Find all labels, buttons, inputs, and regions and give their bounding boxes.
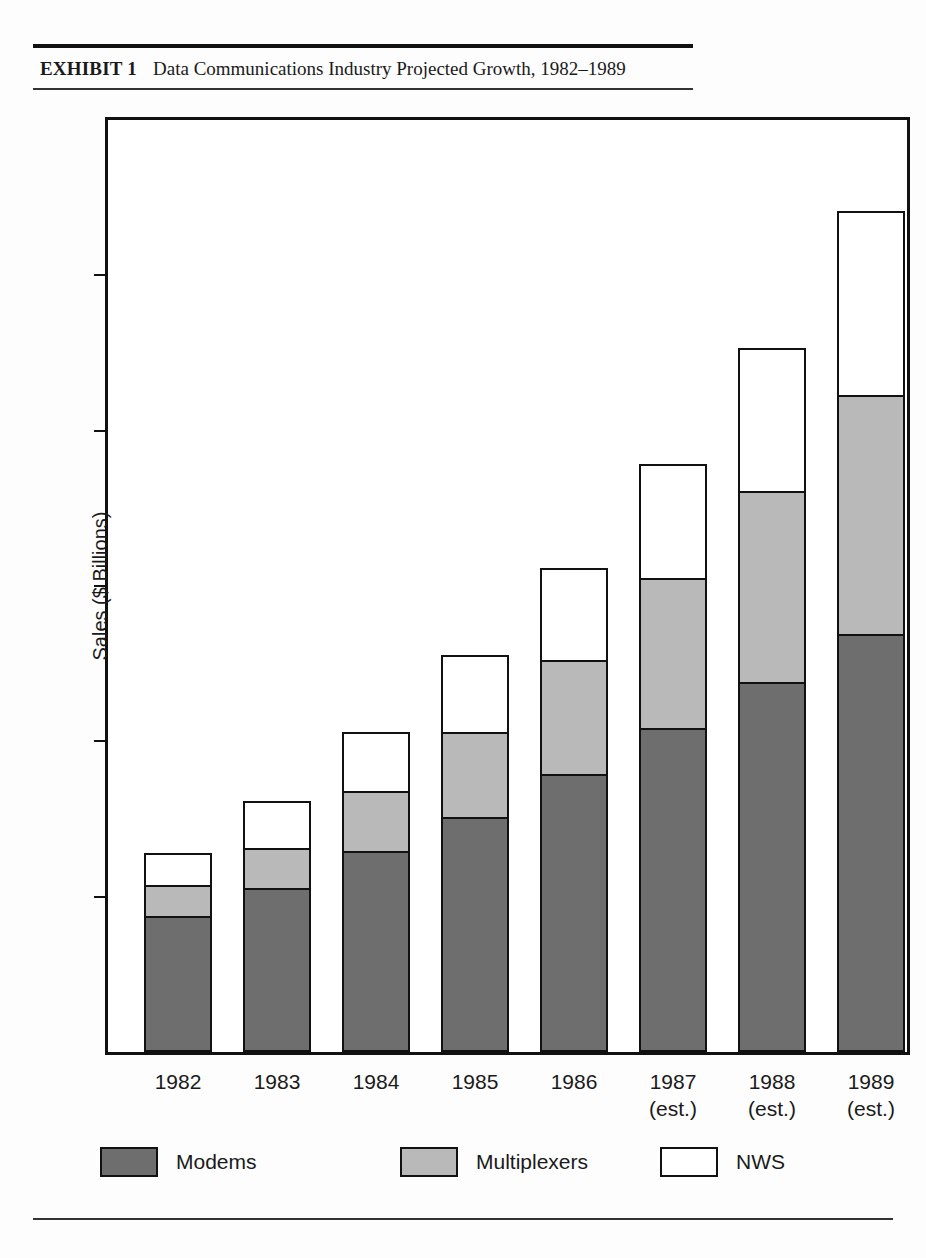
x-axis-label-1986: 1986: [519, 1068, 629, 1095]
bar-1983[interactable]: [243, 803, 311, 1052]
bar-segment-multiplexers-1986[interactable]: [540, 660, 608, 775]
bar-segment-multiplexers-1989[interactable]: [837, 395, 905, 636]
chart-plot-area: 0123456 Sales ($ Billions): [105, 117, 910, 1055]
x-axis-label-1987: 1987(est.): [618, 1068, 728, 1122]
bar-1985[interactable]: [441, 657, 509, 1052]
legend-label-multiplexers: Multiplexers: [476, 1150, 588, 1174]
bar-segment-modems-1986[interactable]: [540, 774, 608, 1052]
y-axis-tick-5: [94, 274, 108, 276]
legend-item-modems[interactable]: Modems: [100, 1147, 257, 1181]
x-axis-label-1985: 1985: [420, 1068, 530, 1095]
bar-segment-nws-1986[interactable]: [540, 568, 608, 662]
bar-segment-modems-1987[interactable]: [639, 728, 707, 1052]
bar-1989[interactable]: [837, 213, 905, 1052]
exhibit-title: Data Communications Industry Projected G…: [153, 58, 626, 79]
bar-segment-modems-1984[interactable]: [342, 851, 410, 1052]
bar-segment-nws-1988[interactable]: [738, 348, 806, 493]
bar-1987[interactable]: [639, 466, 707, 1052]
bar-segment-nws-1983[interactable]: [243, 801, 311, 850]
bar-segment-modems-1985[interactable]: [441, 817, 509, 1052]
legend-item-nws[interactable]: NWS: [660, 1147, 785, 1181]
legend-swatch-multiplexers: [400, 1147, 458, 1177]
bar-segment-multiplexers-1982[interactable]: [144, 885, 212, 918]
bar-1984[interactable]: [342, 734, 410, 1052]
header-rule-top: [33, 44, 693, 48]
exhibit-page: EXHIBIT 1Data Communications Industry Pr…: [0, 0, 926, 1258]
legend-swatch-nws: [660, 1147, 718, 1177]
bar-1988[interactable]: [738, 350, 806, 1052]
bar-segment-modems-1988[interactable]: [738, 682, 806, 1052]
x-axis-label-1988: 1988(est.): [717, 1068, 827, 1122]
x-axis-label-1984: 1984: [321, 1068, 431, 1095]
x-axis-label-1989: 1989(est.): [816, 1068, 926, 1122]
legend-item-multiplexers[interactable]: Multiplexers: [400, 1147, 588, 1181]
bar-segment-nws-1987[interactable]: [639, 464, 707, 579]
bar-segment-multiplexers-1988[interactable]: [738, 491, 806, 684]
bar-segment-nws-1985[interactable]: [441, 655, 509, 733]
exhibit-label: EXHIBIT 1: [40, 58, 137, 79]
bar-segment-multiplexers-1984[interactable]: [342, 791, 410, 854]
y-axis-tick-1: [94, 896, 108, 898]
bar-segment-nws-1989[interactable]: [837, 211, 905, 396]
bar-segment-multiplexers-1983[interactable]: [243, 848, 311, 890]
bar-1982[interactable]: [144, 855, 212, 1052]
bar-segment-nws-1982[interactable]: [144, 853, 212, 888]
exhibit-header: EXHIBIT 1Data Communications Industry Pr…: [40, 54, 740, 84]
bar-group: [108, 120, 907, 1052]
bar-segment-modems-1982[interactable]: [144, 916, 212, 1052]
bar-segment-multiplexers-1987[interactable]: [639, 578, 707, 731]
legend-swatch-modems: [100, 1147, 158, 1177]
header-rule-bottom: [33, 88, 693, 90]
bar-1986[interactable]: [540, 570, 608, 1052]
bar-segment-modems-1983[interactable]: [243, 888, 311, 1052]
legend-label-nws: NWS: [736, 1150, 785, 1174]
y-axis-tick-4: [94, 430, 108, 432]
bar-segment-modems-1989[interactable]: [837, 634, 905, 1052]
y-axis-title: Sales ($ Billions): [89, 512, 112, 661]
footer-rule: [33, 1218, 893, 1220]
x-axis-label-1982: 1982: [123, 1068, 233, 1095]
legend-label-modems: Modems: [176, 1150, 257, 1174]
bar-segment-multiplexers-1985[interactable]: [441, 732, 509, 819]
bar-segment-nws-1984[interactable]: [342, 732, 410, 793]
x-axis-label-1983: 1983: [222, 1068, 332, 1095]
y-axis-tick-2: [94, 740, 108, 742]
